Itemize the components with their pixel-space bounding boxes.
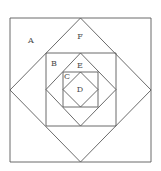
label-e: E	[77, 61, 83, 70]
label-b: B	[51, 59, 57, 68]
label-d: D	[77, 85, 83, 94]
label-a: A	[27, 36, 34, 45]
nested-squares-diagram: A F B E C D	[0, 0, 161, 171]
label-c: C	[64, 72, 70, 81]
label-f: F	[77, 32, 83, 41]
